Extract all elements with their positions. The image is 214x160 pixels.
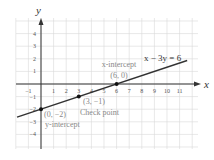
x-intercept-title: x-intercept [102,60,137,69]
coordinate-plane-chart: xy −112345678910114321−1−2−3−4 x − 3y = … [0,0,214,160]
y-tick-label: −4 [30,131,36,137]
y-intercept-title: y-intercept [45,120,80,129]
x-tick-label: 8 [140,88,143,94]
y-tick-label: 3 [33,43,36,49]
x-tick-label: 2 [65,88,68,94]
y-axis-label: y [35,4,41,16]
data-point [77,95,81,99]
x-axis-arrow-icon [194,82,201,87]
equation-label: x − 3y = 6 [144,53,182,63]
check-point-title: Check point [80,108,120,117]
x-tick-label: 11 [177,88,183,94]
y-tick-label: 4 [33,31,36,37]
y-tick-label: 2 [33,56,36,62]
check-point-coord: (3, −1) [83,97,105,106]
x-tick-label: 9 [153,88,156,94]
x-axis-label: x [203,78,209,90]
x-tick-label: 1 [52,88,55,94]
data-point [115,82,119,86]
y-axis-arrow-icon [39,18,44,25]
y-tick-label: −3 [30,119,36,125]
y-intercept-coord: (0, −2) [44,110,66,119]
y-tick-label: −1 [30,94,36,100]
x-tick-label: 10 [164,88,170,94]
data-point [39,107,43,111]
x-tick-label: 3 [77,88,80,94]
x-tick-label: 6 [115,88,118,94]
x-intercept-coord: (6, 0) [110,71,128,80]
y-tick-label: 1 [33,68,36,74]
x-tick-label: 7 [128,88,131,94]
